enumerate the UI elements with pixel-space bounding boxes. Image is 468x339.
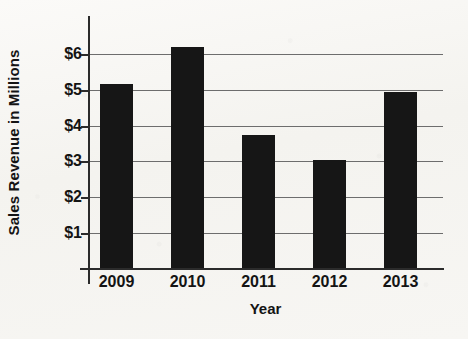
- y-axis-line: [88, 16, 90, 284]
- y-axis-tick-label: $5: [34, 81, 82, 99]
- plot-area: [88, 18, 443, 269]
- y-axis-tick-label: $1: [34, 224, 82, 242]
- bar: [313, 160, 346, 269]
- bar: [384, 92, 417, 269]
- x-axis-tick-label: 2012: [312, 273, 348, 291]
- x-axis-tick-label: 2013: [383, 273, 419, 291]
- bar: [171, 47, 204, 269]
- x-axis-tick-label: 2011: [241, 273, 276, 291]
- bar-chart: Sales Revenue in Millions $1$2$3$4$5$6 2…: [0, 0, 468, 339]
- x-axis-title: Year: [88, 300, 443, 317]
- y-axis-tick-label: $2: [34, 188, 82, 206]
- y-axis-tick-label: $4: [34, 117, 82, 135]
- y-axis-tick-labels: $1$2$3$4$5$6: [30, 0, 82, 339]
- x-axis-line: [80, 268, 444, 270]
- y-axis-tick-label: $6: [34, 45, 82, 63]
- x-axis-tick-label: 2009: [99, 273, 135, 291]
- y-axis-title-text: Sales Revenue in Millions: [6, 50, 23, 236]
- y-axis-title: Sales Revenue in Millions: [0, 0, 28, 285]
- y-axis-tick-label: $3: [34, 152, 82, 170]
- x-axis-tick-label: 2010: [170, 273, 206, 291]
- bar: [242, 135, 275, 269]
- x-axis-tick-labels: 20092010201120122013: [88, 273, 443, 299]
- gridline: [88, 54, 443, 55]
- bar: [100, 84, 133, 269]
